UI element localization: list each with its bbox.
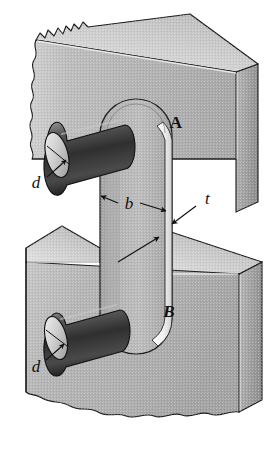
upper-block-side-texture (236, 64, 258, 212)
figure-canvas: d d b t A B (0, 0, 277, 449)
upper-d-label: d (32, 173, 41, 192)
b-label: b (125, 194, 134, 213)
lower-block-side-texture (239, 262, 262, 412)
member-b-label: B (162, 302, 174, 321)
member-a-label: A (170, 113, 183, 132)
pin-connection-illustration: d d b t A B (0, 0, 277, 449)
lower-d-label: d (32, 357, 41, 376)
